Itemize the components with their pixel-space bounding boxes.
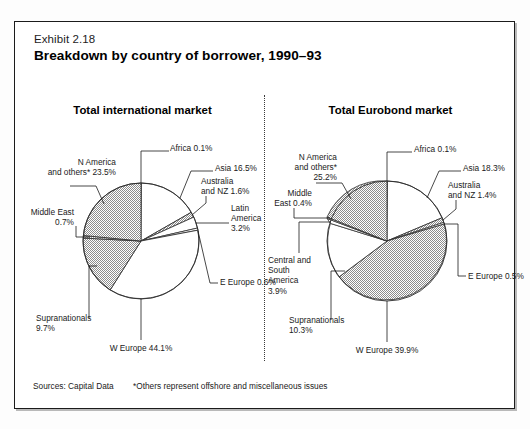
leader-australia: [443, 200, 456, 220]
label-w-europe-eurobond: W Europe 39.9%: [332, 345, 442, 355]
label-latin-america-international: Latin America 3.2%: [231, 203, 261, 234]
label-supranationals-eurobond: Supranationals 10.3%: [289, 315, 344, 335]
footnote-note: *Others represent offshore and miscellan…: [133, 381, 327, 391]
leader-central-south: [299, 222, 331, 253]
source-note: Sources: Capital Data: [33, 381, 114, 391]
leader-middle-east: [294, 208, 330, 218]
label-n-america-international: N America and others* 23.5%: [20, 157, 116, 177]
leader-e-europe: [198, 231, 218, 283]
label-e-europe-eurobond: E Europe 0.5%: [468, 271, 524, 281]
leader-e-europe: [444, 224, 466, 276]
label-asia-eurobond: Asia 18.3%: [463, 163, 505, 173]
exhibit-page: Exhibit 2.18 Breakdown by country of bor…: [0, 0, 530, 429]
label-australia-nz-eurobond: Australia and NZ 1.4%: [448, 180, 496, 200]
label-middle-east-eurobond: Middle East 0.4%: [266, 188, 312, 208]
label-n-america-eurobond: N America and others* 25.2%: [275, 152, 337, 183]
slice-n-america-others: [83, 183, 141, 241]
label-w-europe-international: W Europe 44.1%: [86, 343, 196, 353]
leader-africa: [141, 151, 169, 183]
label-middle-east-international: Middle East 0.7%: [14, 207, 74, 227]
label-supranationals-international: Supranationals 9.7%: [36, 313, 91, 333]
leader-africa: [387, 152, 412, 181]
label-australia-nz-international: Australia and NZ 1.6%: [201, 176, 249, 196]
label-asia-international: Asia 16.5%: [215, 163, 257, 173]
label-africa-international: Africa 0.1%: [170, 143, 212, 153]
leader-australia: [192, 196, 206, 215]
label-africa-eurobond: Africa 0.1%: [414, 144, 456, 154]
pie-charts-canvas: [0, 0, 530, 429]
label-central-south-america-eurobond: Central and South America 3.9%: [268, 255, 311, 296]
